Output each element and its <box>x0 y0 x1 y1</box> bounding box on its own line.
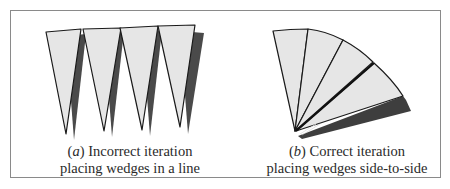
caption-b: (b) Correct iteration placing wedges sid… <box>262 143 432 177</box>
caption-a-label: a <box>72 143 79 159</box>
panel-a-wedges <box>46 25 204 140</box>
caption-a-text1: Incorrect iteration <box>88 143 192 159</box>
caption-a-line2: placing wedges in a line <box>40 160 220 177</box>
caption-b-text1: Correct iteration <box>310 143 405 159</box>
caption-b-label: b <box>294 143 301 159</box>
caption-a: (a) Incorrect iteration placing wedges i… <box>40 143 220 177</box>
panel-b-wedges <box>273 29 411 139</box>
caption-a-line1: (a) Incorrect iteration <box>40 143 220 160</box>
caption-b-line1: (b) Correct iteration <box>262 143 432 160</box>
caption-b-line2: placing wedges side-to-side <box>262 160 432 177</box>
